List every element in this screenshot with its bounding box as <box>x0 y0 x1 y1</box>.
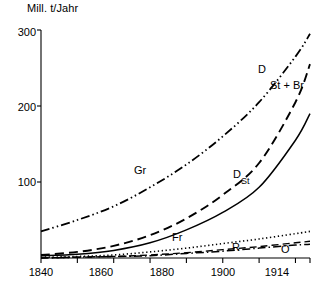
series-line-d <box>41 64 310 255</box>
series-line-o <box>41 244 310 258</box>
series-line-r <box>41 241 310 258</box>
x-axis-ticks <box>41 258 310 263</box>
series-line-st-br <box>41 114 310 256</box>
plot-area <box>0 0 325 293</box>
y-axis-ticks <box>37 30 41 182</box>
series-line-gr <box>41 34 310 232</box>
chart-container: Mill. t/Jahr 300 200 100 1840 1860 1880 … <box>0 0 325 293</box>
axes <box>37 30 310 263</box>
data-series-group <box>41 34 310 258</box>
